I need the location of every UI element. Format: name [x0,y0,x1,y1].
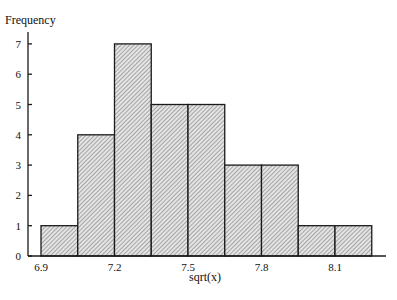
histogram-bar [298,226,335,256]
y-tick-label: 0 [16,250,22,262]
histogram-bar [262,165,299,256]
histogram-bar [115,44,152,256]
x-tick-label: 7.2 [108,261,122,273]
histogram-bar [188,105,225,257]
histogram-bar [335,226,372,256]
x-tick-label: 7.8 [255,261,269,273]
histogram-bar [151,105,188,257]
y-axis-ticks: 01234567 [16,38,33,262]
y-tick-label: 5 [16,99,22,111]
histogram-bar [225,165,262,256]
histogram-bar [78,135,115,256]
y-axis-title: Frequency [5,13,56,27]
histogram-bar [41,226,78,256]
x-tick-label: 8.1 [328,261,342,273]
y-tick-label: 2 [16,189,22,201]
y-tick-label: 4 [16,129,22,141]
histogram-bars [41,44,372,256]
histogram-chart: 01234567 6.97.27.57.88.1 Frequency sqrt(… [0,0,397,300]
y-tick-label: 1 [16,220,22,232]
x-axis-title: sqrt(x) [189,270,221,284]
x-tick-label: 6.9 [34,261,48,273]
x-axis-ticks: 6.97.27.57.88.1 [34,261,342,273]
y-tick-label: 6 [16,68,22,80]
y-tick-label: 3 [16,159,22,171]
y-tick-label: 7 [16,38,22,50]
